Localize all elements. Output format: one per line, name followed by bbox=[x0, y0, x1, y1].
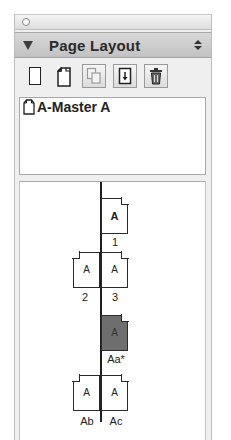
trash-icon bbox=[149, 67, 163, 85]
master-label: A-Master A bbox=[37, 99, 110, 115]
page-corner-icon bbox=[121, 314, 129, 322]
page-thumbnail-ab[interactable]: A bbox=[73, 375, 100, 411]
page-corner-icon bbox=[121, 197, 129, 205]
page-corner-icon bbox=[121, 251, 129, 259]
page-label-3: 3 bbox=[100, 291, 130, 303]
apply-master-icon bbox=[118, 67, 132, 85]
page-thumbnail-ac[interactable]: A bbox=[101, 375, 128, 411]
apply-master-button[interactable] bbox=[113, 64, 137, 88]
duplicate-button[interactable] bbox=[82, 64, 106, 88]
close-button[interactable] bbox=[22, 18, 30, 26]
page-master-letter: A bbox=[74, 264, 99, 275]
page-thumbnail-2[interactable]: A bbox=[73, 252, 100, 288]
page-master-letter: A bbox=[102, 264, 127, 275]
page-master-letter: A bbox=[74, 387, 99, 398]
palette-menu-arrows-icon[interactable] bbox=[194, 39, 202, 52]
page-layout-palette: Page Layout A-Master A bbox=[14, 14, 212, 440]
master-item-a[interactable]: A-Master A bbox=[20, 98, 205, 116]
page-corner-icon bbox=[72, 374, 80, 382]
blank-page-icon bbox=[29, 67, 41, 85]
palette-header[interactable]: Page Layout bbox=[15, 32, 211, 58]
page-label-ab: Ab bbox=[72, 415, 102, 427]
palette-title: Page Layout bbox=[49, 37, 140, 54]
master-pages-list: A-Master A bbox=[19, 97, 206, 175]
page-label-aa: Aa* bbox=[101, 353, 131, 365]
page-master-letter: A bbox=[102, 387, 127, 398]
disclosure-triangle-icon[interactable] bbox=[23, 41, 33, 50]
delete-button[interactable] bbox=[144, 64, 168, 88]
page-toolbar bbox=[15, 60, 211, 92]
page-thumbnail-1[interactable]: A bbox=[101, 198, 128, 234]
master-page-icon bbox=[23, 99, 35, 115]
duplicate-page-icon bbox=[86, 67, 102, 85]
page-label-ac: Ac bbox=[101, 415, 131, 427]
page-master-letter: A bbox=[102, 327, 127, 338]
page-label-1: 1 bbox=[100, 236, 130, 248]
page-label-2: 2 bbox=[70, 291, 100, 303]
page-thumbnail-3[interactable]: A bbox=[101, 252, 128, 288]
page-thumbnail-aa[interactable]: A bbox=[101, 315, 128, 351]
page-master-letter: A bbox=[102, 210, 127, 222]
document-pages-area: A 1 A A 2 3 A Aa* A A Ab Ac bbox=[19, 181, 206, 440]
new-master-button[interactable] bbox=[51, 64, 75, 88]
new-page-button[interactable] bbox=[23, 64, 47, 88]
palette-titlebar[interactable] bbox=[15, 15, 211, 30]
page-corner-icon bbox=[121, 374, 129, 382]
page-corner-icon bbox=[72, 251, 80, 259]
folded-page-icon bbox=[57, 67, 69, 85]
